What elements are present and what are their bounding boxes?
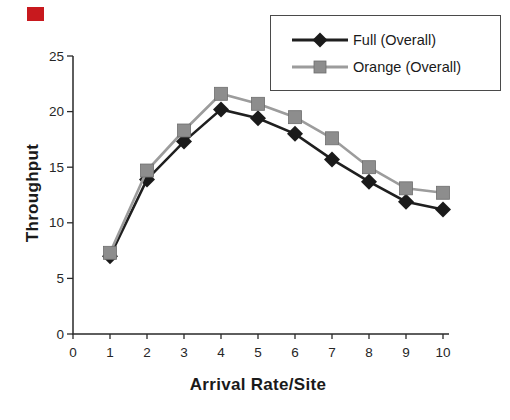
x-axis-title: Arrival Rate/Site bbox=[190, 375, 326, 395]
legend-item-full: Full (Overall) bbox=[291, 31, 500, 49]
svg-text:10: 10 bbox=[49, 215, 64, 230]
svg-text:8: 8 bbox=[365, 345, 373, 360]
svg-text:5: 5 bbox=[254, 345, 262, 360]
svg-text:15: 15 bbox=[49, 160, 64, 175]
y-axis-title: Throughput bbox=[23, 144, 43, 242]
legend-label-full: Full (Overall) bbox=[353, 32, 436, 48]
svg-text:1: 1 bbox=[106, 345, 114, 360]
svg-text:0: 0 bbox=[56, 327, 64, 342]
svg-text:5: 5 bbox=[56, 271, 64, 286]
svg-text:0: 0 bbox=[69, 345, 77, 360]
legend: Full (Overall) Orange (Overall) bbox=[270, 15, 501, 91]
full-series-swatch-icon bbox=[291, 31, 349, 49]
svg-text:7: 7 bbox=[328, 345, 336, 360]
svg-text:3: 3 bbox=[180, 345, 188, 360]
svg-text:9: 9 bbox=[402, 345, 410, 360]
svg-text:2: 2 bbox=[143, 345, 151, 360]
legend-label-orange: Orange (Overall) bbox=[353, 59, 461, 75]
svg-text:10: 10 bbox=[435, 345, 450, 360]
legend-item-orange: Orange (Overall) bbox=[291, 58, 500, 76]
chart-figure: 0510152025012345678910 Throughput Arriva… bbox=[0, 0, 510, 420]
svg-text:25: 25 bbox=[49, 49, 64, 64]
svg-text:20: 20 bbox=[49, 104, 64, 119]
svg-text:6: 6 bbox=[291, 345, 299, 360]
svg-text:4: 4 bbox=[217, 345, 225, 360]
orange-series-swatch-icon bbox=[291, 58, 349, 76]
